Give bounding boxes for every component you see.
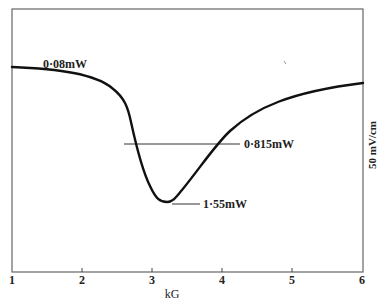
signal-curve (12, 67, 363, 202)
annotation-low-power: 0·08mW (43, 57, 87, 71)
x-axis-label: kG (165, 287, 180, 301)
x-tick-4: 4 (219, 273, 225, 287)
x-tick-3: 3 (149, 273, 155, 287)
plot-frame (12, 9, 363, 272)
annotation-half-width: 0·815mW (244, 137, 294, 151)
x-tick-6: 6 (359, 273, 365, 287)
y-axis-label: 50 mV/cm (366, 121, 378, 169)
stray-mark (284, 61, 286, 64)
x-tick-2: 2 (79, 273, 85, 287)
chart-canvas: 1 2 3 4 5 6 kG 50 mV/cm 0·08mW 0·815mW 1… (0, 0, 383, 303)
x-tick-1: 1 (9, 273, 15, 287)
x-tick-5: 5 (289, 273, 295, 287)
annotation-minimum: 1·55mW (203, 197, 247, 211)
